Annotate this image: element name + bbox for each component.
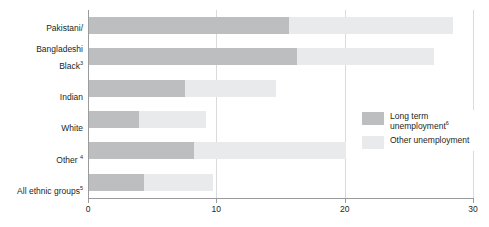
legend-item-long-term-unemployment: Long termunemployment6: [362, 112, 484, 131]
x-axis-ticks: 0 10 20 30: [88, 199, 474, 219]
bar-segment-other-indian: [185, 80, 276, 97]
stacked-bar-other: [89, 142, 346, 159]
category-label-text: All ethnic groups: [17, 186, 80, 196]
tick-mark: [216, 199, 217, 203]
category-label-line-1: Pakistani/: [46, 23, 83, 33]
stacked-bar-white: [89, 111, 206, 128]
stacked-bar-pakistani-bangladeshi: [89, 17, 453, 34]
category-label-text: Black: [59, 61, 80, 71]
stacked-bar-black: [89, 48, 434, 65]
bar-row-pakistani-bangladeshi: [88, 10, 473, 41]
legend-label-long-term: Long termunemployment6: [390, 112, 449, 131]
legend-label-line-2: unemployment: [390, 121, 446, 131]
legend-label-other: Other unemployment: [390, 136, 469, 146]
category-label-black: Black3: [0, 50, 83, 71]
tick-label: 30: [468, 204, 477, 214]
legend-swatch-icon-long-term: [362, 112, 384, 125]
category-label-text: Indian: [60, 92, 83, 102]
legend-label-footnote: 6: [446, 120, 449, 126]
bar-segment-other-other: [194, 142, 345, 159]
category-label-footnote: 5: [80, 185, 83, 191]
tick-label: 0: [86, 204, 91, 214]
stacked-bar-chart: Pakistani/ Bangladeshi Black3 Indian Whi…: [0, 0, 489, 227]
category-label-pakistani-bangladeshi: Pakistani/ Bangladeshi: [0, 12, 83, 54]
bar-row-all-ethnic-groups: [88, 167, 473, 198]
tick-label: 10: [212, 204, 221, 214]
tick-mark: [345, 199, 346, 203]
tick-label: 20: [340, 204, 349, 214]
stacked-bar-all-ethnic-groups: [89, 174, 213, 191]
category-label-text: Other: [56, 155, 80, 165]
category-label-text: White: [61, 123, 83, 133]
legend-swatch-icon-other: [362, 136, 384, 149]
legend-label-line-1: Long term: [390, 111, 428, 121]
legend-item-other-unemployment: Other unemployment: [362, 136, 484, 149]
category-label-footnote: 4: [80, 154, 83, 160]
bar-segment-other-pakistani-bangladeshi: [289, 17, 453, 34]
bar-row-black: [88, 41, 473, 72]
bar-segment-long-term-other: [89, 142, 194, 159]
tick-mark: [88, 199, 89, 203]
stacked-bar-indian: [89, 80, 276, 97]
chart-legend: Long termunemployment6 Other unemploymen…: [362, 110, 484, 151]
plot-area: [88, 10, 473, 198]
bar-segment-long-term-indian: [89, 80, 185, 97]
bar-segment-long-term-all-ethnic-groups: [89, 174, 144, 191]
gridline-30: [473, 10, 474, 198]
bar-segment-long-term-black: [89, 48, 297, 65]
bar-segment-other-all-ethnic-groups: [144, 174, 213, 191]
category-label-other: Other 4: [0, 144, 83, 165]
category-label-footnote: 3: [80, 60, 83, 66]
bar-segment-long-term-pakistani-bangladeshi: [89, 17, 289, 34]
category-label-all-ethnic-groups: All ethnic groups5: [0, 175, 83, 196]
category-label-indian: Indian: [0, 81, 83, 102]
bar-row-indian: [88, 73, 473, 104]
bar-rows: [88, 10, 473, 198]
tick-mark: [473, 199, 474, 203]
category-axis-labels: Pakistani/ Bangladeshi Black3 Indian Whi…: [0, 10, 83, 198]
category-label-white: White: [0, 112, 83, 133]
bar-segment-other-black: [297, 48, 434, 65]
bar-segment-other-white: [139, 111, 206, 128]
bar-segment-long-term-white: [89, 111, 139, 128]
